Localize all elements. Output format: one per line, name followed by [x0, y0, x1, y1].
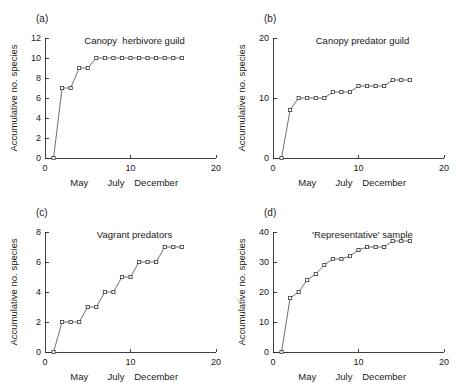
data-point-marker — [180, 56, 183, 59]
figure-container: (a)Canopy herbivore guild02468101201020M… — [0, 0, 456, 388]
data-point-marker — [95, 56, 98, 59]
data-point-marker — [357, 248, 360, 251]
data-point-marker — [163, 245, 166, 248]
data-point-marker — [323, 96, 326, 99]
data-point-marker — [103, 290, 106, 293]
data-point-marker — [280, 156, 283, 159]
x-tick-label: 10 — [353, 163, 363, 173]
month-label: December — [134, 177, 178, 188]
data-point-marker — [86, 66, 89, 69]
month-label: December — [134, 371, 178, 382]
x-tick-label: 10 — [125, 357, 135, 367]
month-label: July — [336, 371, 353, 382]
data-point-marker — [365, 84, 368, 87]
data-point-marker — [180, 245, 183, 248]
y-tick-label: 4 — [36, 113, 41, 123]
data-point-marker — [391, 78, 394, 81]
panel-title: Vagrant predators — [97, 229, 173, 240]
data-point-marker — [69, 320, 72, 323]
data-point-marker — [289, 296, 292, 299]
month-label: May — [298, 177, 316, 188]
data-point-marker — [383, 84, 386, 87]
panel-a-chart: (a)Canopy herbivore guild02468101201020M… — [0, 0, 228, 194]
data-point-marker — [163, 56, 166, 59]
y-tick-label: 6 — [36, 93, 41, 103]
series-line — [282, 80, 410, 158]
data-point-marker — [137, 260, 140, 263]
data-point-marker — [129, 56, 132, 59]
y-tick-label: 10 — [31, 53, 41, 63]
panel-letter: (a) — [36, 13, 48, 24]
data-point-marker — [146, 56, 149, 59]
panel-c-chart: (c)Vagrant predators0246801020MayJulyDec… — [0, 194, 228, 388]
y-tick-label: 10 — [259, 93, 269, 103]
y-tick-label: 20 — [259, 33, 269, 43]
y-tick-label: 6 — [36, 257, 41, 267]
data-point-marker — [280, 350, 283, 353]
data-point-marker — [348, 90, 351, 93]
y-tick-label: 0 — [264, 347, 269, 357]
data-point-marker — [314, 272, 317, 275]
data-point-marker — [120, 56, 123, 59]
panel-letter: (b) — [264, 13, 276, 24]
panel-b-chart: (b)Canopy predator guild0102001020MayJul… — [228, 0, 456, 194]
data-point-marker — [297, 290, 300, 293]
panel-title: Canopy predator guild — [316, 35, 409, 46]
data-point-marker — [331, 90, 334, 93]
y-tick-label: 12 — [31, 33, 41, 43]
x-tick-label: 20 — [211, 163, 221, 173]
data-point-marker — [374, 84, 377, 87]
data-point-marker — [172, 245, 175, 248]
data-point-marker — [314, 96, 317, 99]
data-point-marker — [323, 263, 326, 266]
data-point-marker — [137, 56, 140, 59]
series-line — [54, 58, 182, 158]
y-axis-label: Accumulative no. species — [8, 44, 19, 151]
data-point-marker — [172, 56, 175, 59]
data-point-marker — [391, 239, 394, 242]
x-tick-label: 20 — [439, 163, 449, 173]
month-label: May — [298, 371, 316, 382]
month-label: July — [108, 177, 125, 188]
x-tick-label: 20 — [211, 357, 221, 367]
data-point-marker — [297, 96, 300, 99]
x-tick-label: 10 — [125, 163, 135, 173]
panel-d-chart: (d)'Representative' sample01020304001020… — [228, 194, 456, 388]
data-point-marker — [331, 257, 334, 260]
month-label: December — [362, 371, 406, 382]
data-point-marker — [52, 350, 55, 353]
panel-c: (c)Vagrant predators0246801020MayJulyDec… — [0, 194, 228, 388]
x-tick-label: 20 — [439, 357, 449, 367]
data-point-marker — [69, 86, 72, 89]
data-point-marker — [400, 78, 403, 81]
x-tick-label: 0 — [270, 163, 275, 173]
y-tick-label: 0 — [36, 153, 41, 163]
data-point-marker — [408, 78, 411, 81]
panel-b: (b)Canopy predator guild0102001020MayJul… — [228, 0, 456, 194]
panel-letter: (d) — [264, 207, 276, 218]
data-point-marker — [146, 260, 149, 263]
data-point-marker — [408, 239, 411, 242]
y-tick-label: 8 — [36, 73, 41, 83]
y-axis-label: Accumulative no. species — [8, 238, 19, 345]
panel-title: Canopy herbivore guild — [84, 35, 184, 46]
data-point-marker — [112, 290, 115, 293]
data-point-marker — [103, 56, 106, 59]
data-point-marker — [78, 66, 81, 69]
data-point-marker — [86, 305, 89, 308]
y-tick-label: 2 — [36, 133, 41, 143]
series-line — [54, 247, 182, 352]
data-point-marker — [348, 254, 351, 257]
month-label: May — [70, 371, 88, 382]
data-point-marker — [52, 156, 55, 159]
data-point-marker — [340, 90, 343, 93]
data-point-marker — [365, 245, 368, 248]
data-point-marker — [155, 56, 158, 59]
data-point-marker — [306, 278, 309, 281]
data-point-marker — [400, 239, 403, 242]
panel-d: (d)'Representative' sample01020304001020… — [228, 194, 456, 388]
x-tick-label: 0 — [270, 357, 275, 367]
month-label: May — [70, 177, 88, 188]
data-point-marker — [383, 245, 386, 248]
y-tick-label: 40 — [259, 227, 269, 237]
